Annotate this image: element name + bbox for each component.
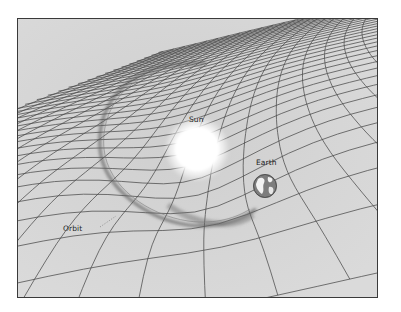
- orbit-label: Orbit: [63, 224, 82, 233]
- sun-label: Sun: [189, 115, 204, 124]
- earth-label: Earth: [256, 158, 277, 167]
- earth-icon: [254, 175, 277, 198]
- spacetime-diagram: Sun Earth Orbit: [17, 18, 378, 298]
- spacetime-grid: [18, 19, 378, 298]
- sun-icon: [164, 116, 230, 182]
